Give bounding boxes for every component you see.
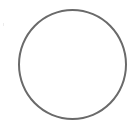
circle-outline-icon[interactable] <box>18 9 127 120</box>
faint-mark <box>3 23 4 26</box>
canvas <box>0 0 131 132</box>
